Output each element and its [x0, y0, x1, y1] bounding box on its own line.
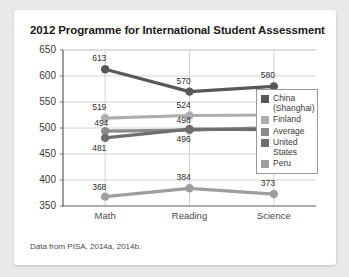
data-label: 498 — [177, 116, 191, 125]
legend-item: China (Shanghai) — [261, 94, 314, 113]
page-background: 2012 Programme for International Student… — [0, 0, 349, 277]
legend-swatch-icon — [261, 95, 269, 103]
data-label: 494 — [94, 119, 108, 128]
y-tick-label: 400 — [30, 175, 56, 185]
legend-item-label: China (Shanghai) — [273, 94, 315, 113]
page-title: 2012 Programme for International Student… — [30, 24, 325, 36]
legend-item: Average — [261, 127, 314, 137]
legend-item-label: Finland — [273, 115, 301, 125]
y-tick-label: 550 — [30, 97, 56, 107]
data-label: 368 — [92, 183, 106, 192]
data-label: 481 — [92, 144, 106, 153]
data-label: 580 — [261, 71, 275, 80]
data-label: 519 — [92, 103, 106, 112]
legend-swatch-icon — [261, 139, 269, 147]
y-tick-label: 450 — [30, 149, 56, 159]
data-label: 570 — [177, 77, 191, 86]
y-tick-label: 600 — [30, 71, 56, 81]
legend-swatch-icon — [261, 128, 269, 136]
legend-item-label: Average — [273, 127, 305, 137]
data-point-marker — [101, 192, 109, 200]
data-point-marker — [270, 190, 278, 198]
legend-item-label: Peru — [273, 159, 291, 169]
data-label: 384 — [177, 173, 191, 182]
legend-item: United States — [261, 138, 314, 157]
x-tick-label: Math — [70, 211, 140, 221]
data-point-marker — [185, 87, 193, 95]
data-label: 613 — [92, 54, 106, 63]
data-point-marker — [185, 125, 193, 133]
legend-swatch-icon — [261, 160, 269, 168]
source-note: Data from PISA, 2014a, 2014b. — [30, 242, 141, 251]
legend-item: Finland — [261, 115, 314, 125]
data-point-marker — [101, 65, 109, 73]
y-tick-label: 650 — [30, 45, 56, 55]
x-tick-label: Science — [239, 211, 309, 221]
chart-card: 2012 Programme for International Student… — [14, 10, 336, 265]
data-label: 524 — [177, 101, 191, 110]
data-label: 496 — [177, 135, 191, 144]
data-point-marker — [185, 184, 193, 192]
chart-legend: China (Shanghai)FinlandAverageUnited Sta… — [256, 89, 318, 174]
y-tick-label: 350 — [30, 201, 56, 211]
data-label: 373 — [261, 179, 275, 188]
x-tick-label: Reading — [155, 211, 225, 221]
legend-item-label: United States — [273, 138, 298, 157]
y-tick-label: 500 — [30, 123, 56, 133]
legend-swatch-icon — [261, 116, 269, 124]
data-point-marker — [101, 134, 109, 142]
legend-item: Peru — [261, 159, 314, 169]
